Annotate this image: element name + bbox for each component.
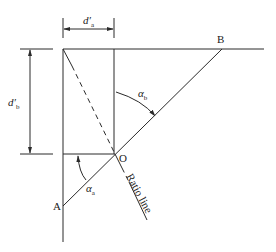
- angle-alpha-b-label: αb: [138, 87, 148, 102]
- ratio-line-solid-top: [63, 49, 72, 66]
- point-a-label: A: [53, 200, 61, 212]
- dimension-db: d′b: [8, 49, 53, 154]
- dimension-db-label: d′b: [8, 96, 20, 111]
- ratio-line-dashed: [72, 66, 115, 154]
- ratio-line-label: Ratio line: [124, 171, 155, 215]
- point-b-label: B: [217, 33, 224, 45]
- dimension-da-label: d′a: [83, 14, 95, 29]
- angle-alpha-b-arc: [116, 92, 155, 116]
- angle-alpha-a-label: αa: [86, 182, 96, 197]
- ratio-line-diagram: d′a d′b Ratio line αb αa B O A: [0, 0, 276, 252]
- dimension-da: d′a: [63, 14, 114, 38]
- point-o-label: O: [119, 152, 127, 164]
- angle-alpha-a-arc: [78, 156, 86, 180]
